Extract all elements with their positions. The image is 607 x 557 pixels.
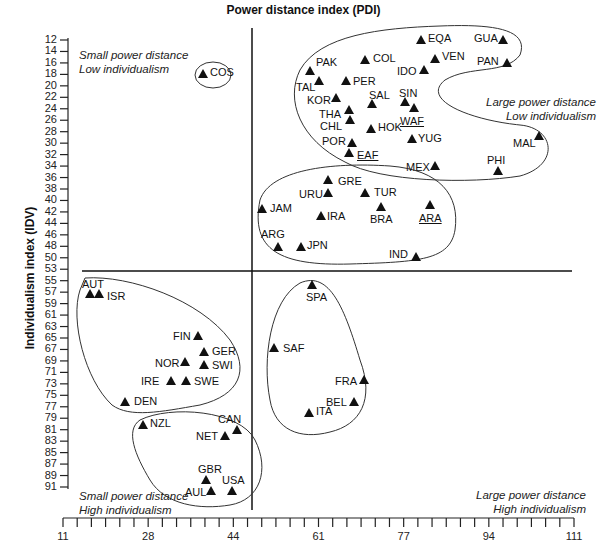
triangle-marker-icon	[296, 242, 306, 251]
y-tick-label: 32	[30, 148, 57, 160]
point-label-ido: IDO	[397, 65, 417, 77]
quadrant-label-bottom-left: Small power distance High individualism	[79, 489, 188, 517]
y-tick-label: 77	[30, 400, 57, 412]
point-label-eqa: EQA	[428, 32, 451, 44]
point-label-mal: MAL	[513, 137, 536, 149]
point-label-ara: ARA	[419, 212, 442, 224]
point-label-uru: URU	[299, 188, 323, 200]
y-tick-label: 89	[30, 469, 57, 481]
point-label-pan: PAN	[477, 55, 499, 67]
triangle-marker-icon	[344, 148, 354, 157]
y-tick-label: 65	[30, 331, 57, 343]
y-tick-label: 81	[30, 423, 57, 435]
y-tick-label: 22	[30, 90, 57, 102]
y-tick-label: 71	[30, 365, 57, 377]
quadrant-label-top-left: Small power distance Low individualism	[79, 48, 188, 76]
y-tick-label: 42	[30, 205, 57, 217]
triangle-marker-icon	[323, 175, 333, 184]
point-label-gbr: GBR	[198, 463, 222, 475]
triangle-marker-icon	[206, 486, 216, 495]
triangle-marker-icon	[407, 134, 417, 143]
y-tick-label: 30	[30, 136, 57, 148]
triangle-marker-icon	[180, 357, 190, 366]
point-label-col: COL	[373, 52, 396, 64]
x-tick-label: 111	[559, 530, 589, 542]
y-tick-label: 40	[30, 193, 57, 205]
x-tick-label: 11	[48, 530, 78, 542]
point-label-arg: ARG	[261, 228, 285, 240]
triangle-marker-icon	[376, 202, 386, 211]
triangle-marker-icon	[341, 76, 351, 85]
triangle-marker-icon	[416, 35, 426, 44]
triangle-marker-icon	[345, 115, 355, 124]
triangle-marker-icon	[425, 200, 435, 209]
y-tick-label: 59	[30, 297, 57, 309]
y-tick-label: 38	[30, 182, 57, 194]
triangle-marker-icon	[269, 343, 279, 352]
triangle-marker-icon	[120, 397, 130, 406]
triangle-marker-icon	[366, 124, 376, 133]
triangle-marker-icon	[304, 408, 314, 417]
triangle-marker-icon	[166, 376, 176, 385]
triangle-marker-icon	[430, 54, 440, 63]
triangle-marker-icon	[193, 331, 203, 340]
y-tick-label: 16	[30, 56, 57, 68]
y-tick-label: 50	[30, 251, 57, 263]
y-tick-label: 34	[30, 159, 57, 171]
point-label-mex: MEX	[406, 161, 430, 173]
point-label-chl: CHL	[320, 120, 342, 132]
point-label-cos: COS	[210, 66, 234, 78]
scatter-chart: Power distance index (PDI) Individualism…	[0, 0, 607, 557]
y-tick-label: 57	[30, 285, 57, 297]
point-label-bra: BRA	[370, 213, 393, 225]
triangle-marker-icon	[347, 138, 357, 147]
point-label-tha: THA	[319, 108, 341, 120]
point-label-por: POR	[322, 135, 346, 147]
triangle-marker-icon	[227, 486, 237, 495]
point-label-gua: GUA	[474, 32, 498, 44]
triangle-marker-icon	[360, 188, 370, 197]
x-tick-label: 61	[304, 530, 334, 542]
triangle-marker-icon	[331, 93, 341, 102]
y-tick-label: 14	[30, 44, 57, 56]
y-tick-label: 79	[30, 411, 57, 423]
point-label-tur: TUR	[374, 186, 397, 198]
triangle-marker-icon	[323, 188, 333, 197]
point-label-swi: SWI	[212, 359, 233, 371]
y-tick-label: 36	[30, 171, 57, 183]
point-label-fra: FRA	[335, 375, 357, 387]
y-tick-label: 67	[30, 342, 57, 354]
triangle-marker-icon	[199, 360, 209, 369]
y-tick-label: 91	[30, 480, 57, 492]
triangle-marker-icon	[344, 105, 354, 114]
point-label-phi: PHI	[487, 154, 505, 166]
triangle-marker-icon	[314, 76, 324, 85]
point-label-gre: GRE	[338, 175, 362, 187]
y-tick-label: 63	[30, 320, 57, 332]
point-label-jam: JAM	[270, 202, 292, 214]
point-label-isr: ISR	[107, 290, 125, 302]
point-label-sin: SIN	[399, 87, 417, 99]
point-label-jpn: JPN	[307, 239, 328, 251]
point-label-pak: PAK	[316, 56, 337, 68]
point-label-spa: SPA	[306, 291, 327, 303]
point-label-aul: AUL	[185, 486, 206, 498]
point-label-net: NET	[196, 430, 218, 442]
triangle-marker-icon	[307, 280, 317, 289]
y-tick-label: 26	[30, 113, 57, 125]
triangle-marker-icon	[257, 204, 267, 213]
point-label-nzl: NZL	[150, 417, 171, 429]
y-tick-label: 18	[30, 67, 57, 79]
triangle-marker-icon	[199, 347, 209, 356]
x-tick-label: 28	[133, 530, 163, 542]
x-tick-label: 44	[218, 530, 248, 542]
triangle-marker-icon	[316, 211, 326, 220]
y-tick-label: 83	[30, 434, 57, 446]
point-label-nor: NOR	[155, 357, 179, 369]
point-label-ven: VEN	[442, 50, 465, 62]
point-label-ira: IRA	[327, 210, 345, 222]
triangle-marker-icon	[138, 420, 148, 429]
point-label-ire: IRE	[141, 375, 159, 387]
point-label-yug: YUG	[418, 132, 442, 144]
point-label-swe: SWE	[194, 375, 219, 387]
